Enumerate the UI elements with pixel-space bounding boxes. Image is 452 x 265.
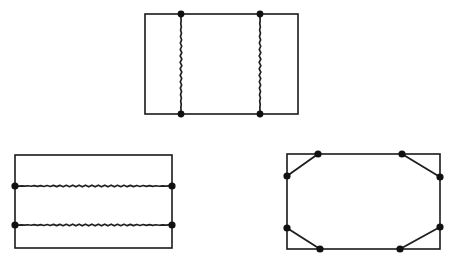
dot-bottom-left — [316, 245, 323, 252]
vertical-chord-right — [259, 14, 261, 114]
dot-right-upper-chord — [168, 182, 175, 189]
bottom-left-figure-boundary-rectangle — [15, 155, 172, 248]
dot-left-lower-chord — [11, 221, 18, 228]
diagonal-chord-top-left — [287, 154, 318, 176]
diagonal-chord-top-right — [402, 154, 440, 177]
diagonal-chord-bottom-left — [287, 228, 320, 249]
horizontal-chord-upper — [15, 185, 172, 187]
horizontal-chord-lower — [15, 224, 172, 226]
dot-left-lower — [283, 224, 290, 231]
top-figure-boundary-rectangle — [145, 14, 298, 114]
figures-layer — [11, 11, 443, 253]
dot-bottom-right — [396, 245, 403, 252]
dot-left-upper — [283, 172, 290, 179]
diagonal-chord-bottom-right — [400, 227, 440, 249]
dot-right-upper — [436, 173, 443, 180]
dot-right-lower-chord — [168, 221, 175, 228]
dot-bottom-right-chord — [257, 111, 264, 118]
bottom-right-figure-boundary-rectangle — [287, 154, 440, 249]
dot-right-lower — [436, 223, 443, 230]
rectangle-with-inscribed-octagon — [283, 150, 443, 252]
dot-top-left-chord — [178, 11, 185, 18]
dot-top-right-chord — [257, 11, 264, 18]
rectangle-with-two-horizontal-chords — [11, 155, 175, 248]
vertical-chord-left — [180, 14, 182, 114]
rectangle-with-two-vertical-chords — [145, 11, 298, 118]
dot-bottom-left-chord — [178, 111, 185, 118]
dot-left-upper-chord — [11, 182, 18, 189]
dot-top-left — [314, 150, 321, 157]
dot-top-right — [398, 150, 405, 157]
diagram-canvas — [0, 0, 452, 265]
